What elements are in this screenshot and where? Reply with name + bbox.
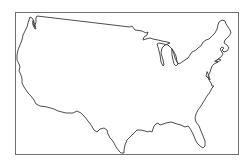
puget-sound-outline bbox=[33, 21, 35, 27]
us-mainland-outline bbox=[17, 16, 231, 153]
us-outline-map bbox=[0, 0, 250, 163]
long-island-outline bbox=[215, 59, 221, 62]
michigan-lower-peninsula-outline bbox=[172, 49, 178, 66]
map-canvas bbox=[0, 0, 250, 163]
